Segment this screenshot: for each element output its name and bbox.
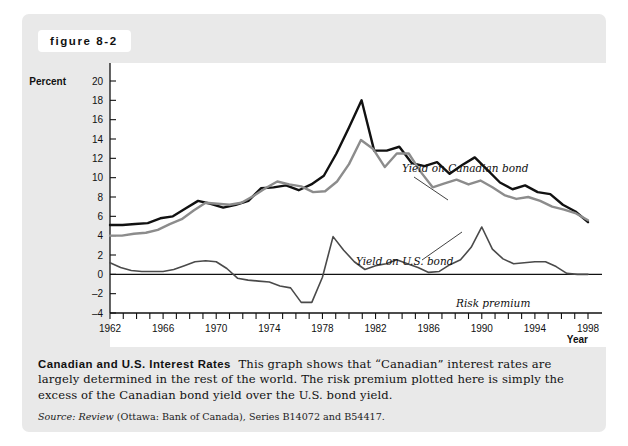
y-tick-label: 14 bbox=[92, 134, 104, 145]
x-tick-label: 1982 bbox=[364, 323, 387, 334]
y-axis-tick-labels: –4–202468101214161820 bbox=[92, 76, 104, 319]
caption-block: Canadian and U.S. Interest Rates This gr… bbox=[38, 357, 590, 422]
y-tick-label: 8 bbox=[97, 192, 103, 203]
y-tick-label: 2 bbox=[97, 250, 103, 261]
y-tick-label: –4 bbox=[92, 308, 104, 319]
y-tick-label: 20 bbox=[92, 76, 104, 87]
x-tick-label: 1998 bbox=[577, 323, 600, 334]
x-tick-label: 1994 bbox=[524, 323, 547, 334]
interest-rates-line-chart: –4–202468101214161820 196219661970197419… bbox=[22, 54, 606, 364]
series-annotation-label: Risk premium bbox=[455, 297, 530, 309]
y-tick-label: 12 bbox=[92, 153, 104, 164]
x-tick-label: 1966 bbox=[152, 323, 175, 334]
y-tick-label: –2 bbox=[92, 288, 104, 299]
x-tick-label: 1986 bbox=[418, 323, 441, 334]
figure-number-badge: figure 8-2 bbox=[38, 30, 131, 52]
y-tick-label: 0 bbox=[97, 269, 103, 280]
y-tick-label: 4 bbox=[97, 230, 103, 241]
x-tick-label: 1970 bbox=[205, 323, 228, 334]
source-details: (Ottawa: Bank of Canada), Series B14072 … bbox=[117, 411, 385, 422]
y-tick-label: 16 bbox=[92, 114, 104, 125]
figure-card: figure 8-2 –4–202468101214161820 1962196… bbox=[22, 14, 606, 432]
series-annotation-label: Yield on U.S. bond bbox=[356, 255, 454, 267]
caption-title: Canadian and U.S. Interest Rates bbox=[38, 358, 231, 370]
source-label: Source: bbox=[38, 411, 75, 422]
x-tick-label: 1990 bbox=[471, 323, 494, 334]
y-tick-label: 18 bbox=[92, 95, 104, 106]
caption-paragraph: Canadian and U.S. Interest Rates This gr… bbox=[38, 357, 590, 403]
y-axis-title: Percent bbox=[29, 76, 66, 87]
source-publication: Review bbox=[78, 411, 113, 422]
y-tick-label: 10 bbox=[92, 172, 104, 183]
x-tick-label: 1974 bbox=[258, 323, 281, 334]
source-line: Source: Review (Ottawa: Bank of Canada),… bbox=[38, 411, 590, 422]
chart-plot-area: –4–202468101214161820 196219661970197419… bbox=[22, 54, 606, 364]
x-tick-label: 1962 bbox=[99, 323, 122, 334]
x-tick-label: 1978 bbox=[311, 323, 334, 334]
series-annotation-label: Yield on Canadian bond bbox=[402, 162, 529, 174]
y-tick-label: 6 bbox=[97, 211, 103, 222]
x-axis-title: Year bbox=[567, 334, 588, 345]
